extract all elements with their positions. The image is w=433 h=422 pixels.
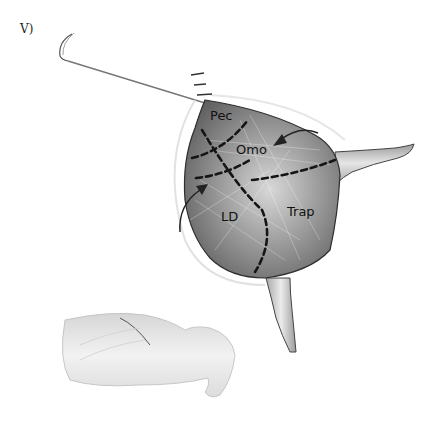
animal-body xyxy=(62,313,235,397)
hindlimb xyxy=(266,278,296,352)
surgical-illustration xyxy=(0,0,433,422)
forelimb xyxy=(335,144,414,182)
label-trap: Trap xyxy=(287,204,315,219)
skin-flap xyxy=(184,100,340,278)
suture-needle xyxy=(60,33,74,61)
suture-thread xyxy=(68,61,205,103)
label-ld: LD xyxy=(221,209,238,224)
suture-stitches xyxy=(191,73,212,95)
label-omo: Omo xyxy=(236,142,267,157)
label-pec: Pec xyxy=(210,108,233,123)
